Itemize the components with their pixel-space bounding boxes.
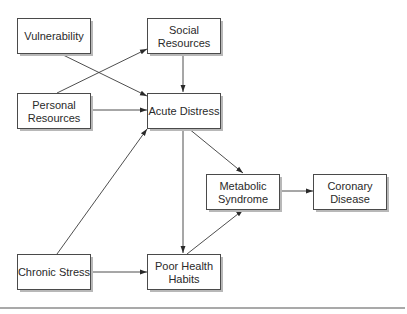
- node-label: Coronary: [327, 180, 373, 192]
- arrow-acute-distress-to-metabolic-syndrome: [188, 128, 243, 173]
- node-label: Resources: [28, 112, 81, 124]
- arrow-vulnerability-to-acute-distress: [57, 52, 147, 96]
- node-label: Acute Distress: [149, 105, 220, 117]
- node-vulnerability: Vulnerability: [18, 19, 94, 57]
- node-label: Resources: [158, 37, 211, 49]
- node-label: Metabolic: [219, 180, 267, 192]
- arrow-poor-health-habits-to-metabolic-syndrome: [187, 210, 243, 254]
- node-label: Disease: [330, 193, 370, 205]
- node-label: Poor Health: [155, 260, 213, 272]
- path-diagram: VulnerabilitySocialResourcesPersonalReso…: [0, 0, 407, 314]
- node-label: Habits: [168, 273, 200, 285]
- node-chronic-stress: Chronic Stress: [18, 255, 94, 293]
- node-label: Syndrome: [218, 193, 268, 205]
- node-poor-health-habits: Poor HealthHabits: [148, 255, 224, 293]
- node-label: Vulnerability: [24, 30, 84, 42]
- node-personal-resources: PersonalResources: [18, 94, 94, 132]
- node-acute-distress: Acute Distress: [148, 94, 224, 132]
- arrow-chronic-stress-to-acute-distress: [57, 129, 147, 254]
- node-metabolic-syndrome: MetabolicSyndrome: [207, 175, 283, 213]
- node-social-resources: SocialResources: [148, 19, 224, 57]
- node-label: Social: [169, 24, 199, 36]
- node-label: Chronic Stress: [18, 266, 91, 278]
- node-label: Personal: [32, 99, 75, 111]
- edges: [57, 49, 313, 272]
- node-coronary-disease: CoronaryDisease: [314, 175, 390, 213]
